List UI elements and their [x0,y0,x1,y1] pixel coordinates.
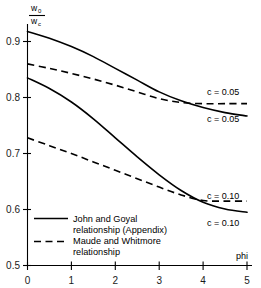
x-tick-label-1: 1 [69,275,75,286]
x-tick-label-2: 2 [113,275,119,286]
annotation-dashed-c010: c = 0.10 [207,191,239,201]
y-tick-label-4: 0.9 [6,36,20,47]
curve-annotations: c = 0.05 c = 0.05 c = 0.10 c = 0.10 [207,87,239,228]
chart-legend: John and Goyal relationship (Appendix) M… [34,214,167,257]
legend-label-maude-whitmore-line2: relationship [73,247,120,257]
annotation-solid-c010: c = 0.10 [207,218,239,228]
legend-label-maude-whitmore-line1: Maude and Whitmore [73,236,161,246]
y-axis-label-numerator-subscript: 0 [38,8,42,14]
x-tick-label-5: 5 [244,275,250,286]
y-axis-label-denominator: w [30,16,38,26]
y-tick-label-0: 0.5 [6,260,20,271]
y-tick-label-3: 0.8 [6,92,20,103]
x-tick-label-4: 4 [200,275,206,286]
y-axis-label-denominator-subscript: c [38,21,41,27]
y-tick-label-1: 0.6 [6,204,20,215]
x-tick-label-3: 3 [156,275,162,286]
y-axis-label: w 0 w c [29,3,45,27]
legend-label-john-goyal-line2: relationship (Appendix) [73,225,167,235]
legend-label-john-goyal-line1: John and Goyal [73,214,137,224]
x-axis-title: phi [236,251,248,261]
annotation-solid-c005: c = 0.05 [207,114,239,124]
x-tick-label-0: 0 [25,275,31,286]
y-axis-label-numerator: w [30,3,38,13]
chart-figure: w 0 w c 0.5 0.6 0.7 0.8 0.9 0 1 2 3 4 5 … [0,0,261,288]
curve-john-goyal-c005 [28,31,248,116]
annotation-dashed-c005: c = 0.05 [207,87,239,97]
curve-maude-whitmore-c005 [28,64,248,104]
y-tick-label-2: 0.7 [6,148,20,159]
